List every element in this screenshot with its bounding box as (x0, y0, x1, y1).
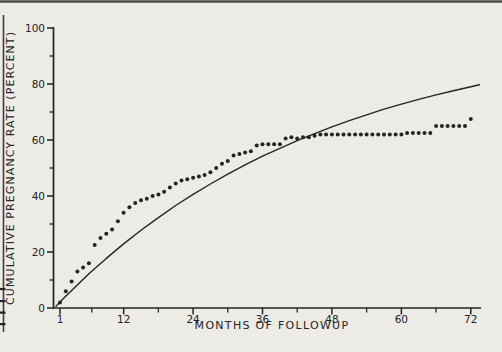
y-tick-label: 100 (25, 22, 45, 34)
data-point (156, 193, 160, 197)
data-point (93, 243, 97, 247)
data-point (318, 132, 322, 136)
data-point (249, 149, 253, 153)
data-point (446, 124, 450, 128)
data-point (75, 270, 79, 274)
data-point (342, 132, 346, 136)
data-point (451, 124, 455, 128)
data-point (469, 117, 473, 121)
y-tick-label: 0 (38, 302, 45, 314)
y-tick-label: 80 (32, 78, 45, 90)
y-tick-label: 40 (32, 190, 45, 202)
x-tick-label: 72 (464, 313, 477, 325)
data-point (151, 194, 155, 198)
x-tick-label: 60 (395, 313, 408, 325)
x-axis-title: MONTHS OF FOLLOWUP (195, 319, 350, 332)
data-point (370, 132, 374, 136)
data-point (122, 211, 126, 215)
data-point (289, 135, 293, 139)
data-point (191, 176, 195, 180)
data-point (365, 132, 369, 136)
data-point (110, 228, 114, 232)
data-point (313, 134, 317, 138)
data-point (324, 132, 328, 136)
data-point (133, 201, 137, 205)
x-tick-label: 12 (117, 313, 130, 325)
data-point (58, 300, 62, 304)
data-point (127, 205, 131, 209)
data-point (81, 265, 85, 269)
data-point (208, 170, 212, 174)
data-point (272, 142, 276, 146)
data-point (278, 142, 282, 146)
x-tick-label: 1 (57, 313, 64, 325)
data-point (214, 166, 218, 170)
data-point (87, 261, 91, 265)
data-point (428, 131, 432, 135)
y-tick-label: 20 (32, 246, 45, 258)
data-point (203, 173, 207, 177)
data-point (423, 131, 427, 135)
data-point (237, 152, 241, 156)
data-point (64, 289, 68, 293)
data-point (382, 132, 386, 136)
pregnancy-rate-chart: 0204060801001122436486072 CUMULATIVE PRE… (0, 0, 502, 352)
data-point (440, 124, 444, 128)
data-point (411, 131, 415, 135)
data-point (168, 186, 172, 190)
data-point (388, 132, 392, 136)
data-point (417, 131, 421, 135)
data-point (162, 190, 166, 194)
scanned-figure: 0204060801001122436486072 CUMULATIVE PRE… (0, 0, 502, 352)
data-point (307, 135, 311, 139)
y-tick-label: 60 (32, 134, 45, 146)
margin-text-fragment (0, 312, 6, 314)
data-point (457, 124, 461, 128)
data-point (116, 219, 120, 223)
data-point (220, 162, 224, 166)
data-point (284, 137, 288, 141)
data-point (347, 132, 351, 136)
data-point (336, 132, 340, 136)
data-point (226, 159, 230, 163)
data-point (145, 197, 149, 201)
data-point (353, 132, 357, 136)
data-point (185, 177, 189, 181)
data-point (255, 144, 259, 148)
data-point (266, 142, 270, 146)
data-point (139, 198, 143, 202)
data-point (434, 124, 438, 128)
data-point (359, 132, 363, 136)
data-point (376, 132, 380, 136)
data-point (330, 132, 334, 136)
data-point (399, 132, 403, 136)
data-point (180, 179, 184, 183)
data-point (295, 137, 299, 141)
data-point (104, 232, 108, 236)
data-point (232, 153, 236, 157)
data-point (301, 135, 305, 139)
margin-text-fragment (0, 323, 6, 325)
data-point (405, 131, 409, 135)
data-point (70, 279, 74, 283)
figure-background (0, 0, 502, 352)
data-point (394, 132, 398, 136)
data-point (463, 124, 467, 128)
data-point (197, 174, 201, 178)
data-point (243, 151, 247, 155)
y-axis-title: CUMULATIVE PREGNANCY RATE (PERCENT) (4, 31, 17, 305)
data-point (261, 142, 265, 146)
data-point (174, 181, 178, 185)
data-point (99, 236, 103, 240)
